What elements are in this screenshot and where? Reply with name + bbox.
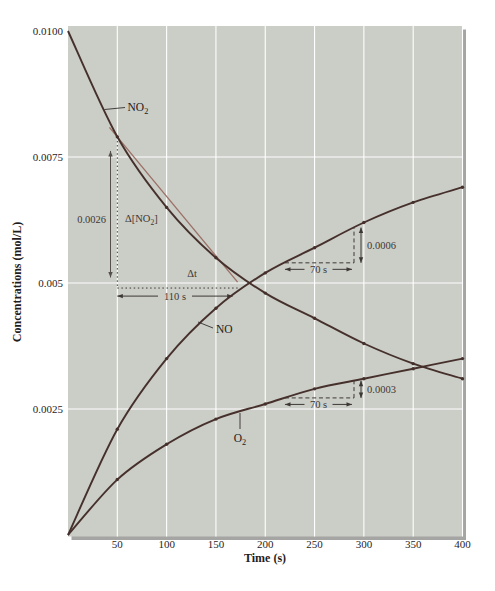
delta-t-value: 110 s [164,291,186,302]
rate-dc-value: 0.0003 [367,384,396,395]
x-tick-label: 50 [112,538,124,550]
y-tick-label: 0.0025 [33,403,64,415]
y-tick-label: 0.0075 [33,151,64,163]
x-tick-label: 400 [454,538,471,550]
data-point-O2 [116,478,119,481]
data-point-NO [165,357,168,360]
data-point-NO [214,307,217,310]
y-tick-label: 0.0100 [33,25,64,37]
data-point-NO2 [411,362,414,365]
plot-root: 0.0026Δ[NO2]Δt110 s0.000670 s0.000370 sN… [33,25,472,550]
delta-conc-value: 0.0026 [77,214,106,225]
delta-t-label: Δt [187,268,197,279]
data-point-NO [264,271,267,274]
x-tick-label: 200 [257,538,274,550]
x-tick-label: 100 [158,538,175,550]
x-tick-label: 250 [306,538,323,550]
rate-dt-value: 70 s [310,264,327,275]
concentration-time-chart: 0.0026Δ[NO2]Δt110 s0.000670 s0.000370 sN… [0,0,495,591]
data-point-NO [313,246,316,249]
y-axis-title: Concentrations (mol/L) [10,222,24,342]
data-point-NO2 [461,377,464,380]
data-point-O2 [165,443,168,446]
data-point-O2 [362,377,365,380]
data-point-NO2 [165,206,168,209]
data-point-NO [116,427,119,430]
x-tick-label: 150 [208,538,225,550]
data-point-O2 [461,357,464,360]
x-tick-label: 350 [405,538,422,550]
data-point-NO [362,221,365,224]
curve-label-NO: NO [216,323,233,335]
x-axis-title: Time (s) [244,551,286,565]
x-tick-label: 300 [356,538,373,550]
data-point-NO2 [313,317,316,320]
data-point-NO [461,186,464,189]
rate-dc-value: 0.0006 [367,240,396,251]
data-point-NO2 [116,135,119,138]
data-point-O2 [214,417,217,420]
data-point-O2 [264,402,267,405]
data-point-NO2 [264,291,267,294]
y-tick-label: 0.005 [38,277,63,289]
data-point-NO2 [214,256,217,259]
data-point-NO2 [362,342,365,345]
data-point-O2 [411,367,414,370]
data-point-NO [411,201,414,204]
data-point-O2 [313,387,316,390]
kinetics-figure: 0.0026Δ[NO2]Δt110 s0.000670 s0.000370 sN… [0,0,495,591]
rate-dt-value: 70 s [310,399,327,410]
